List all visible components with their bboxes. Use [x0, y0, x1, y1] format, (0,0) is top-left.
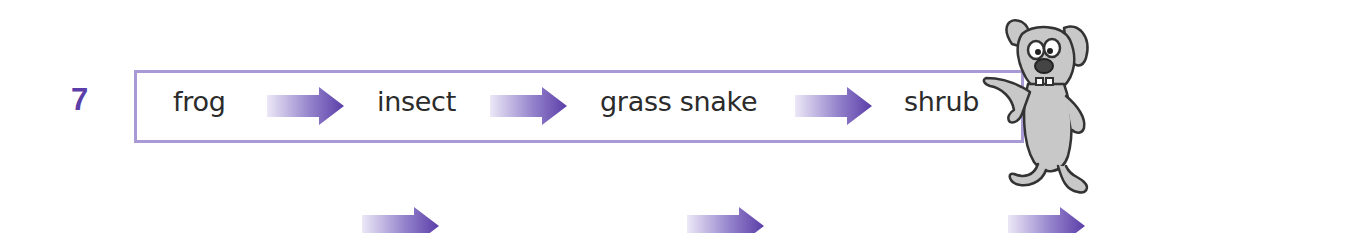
answer-arrow-right-icon	[362, 207, 439, 233]
chain-item-shrub: shrub	[904, 84, 979, 120]
answer-arrow-right-icon	[1008, 207, 1085, 233]
arrow-right-icon	[267, 87, 344, 125]
arrow-right-icon	[795, 87, 872, 125]
question-number: 7	[71, 80, 88, 120]
chain-item-insect: insect	[377, 84, 456, 120]
arrow-right-icon	[490, 87, 567, 125]
chain-item-grass-snake: grass snake	[600, 84, 757, 120]
answer-arrow-right-icon	[687, 207, 764, 233]
cartoon-dog-icon	[982, 14, 1107, 204]
chain-item-frog: frog	[173, 84, 225, 120]
